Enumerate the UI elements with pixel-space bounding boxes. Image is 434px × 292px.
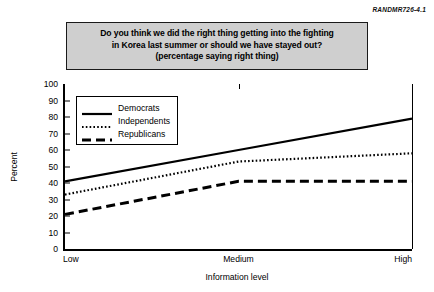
y-tick-label-40: 40	[48, 178, 65, 188]
legend-swatch-democrats	[82, 104, 112, 112]
chart-title-line-3: (percentage saying right thing)	[71, 51, 363, 63]
y-tick-label-60: 60	[48, 145, 65, 155]
y-tick-label-50: 50	[48, 162, 65, 172]
x-tick-label-low: Low	[63, 254, 79, 264]
chart-legend: DemocratsIndependentsRepublicans	[76, 96, 178, 145]
series-line-independents	[65, 153, 412, 194]
legend-label-independents: Independents	[118, 116, 170, 126]
chart-title-line-1: Do you think we did the right thing gett…	[71, 28, 363, 40]
x-axis-label: Information level	[205, 272, 268, 282]
y-tick-label-20: 20	[48, 211, 65, 221]
y-tick-label-90: 90	[48, 96, 65, 106]
figure-label: RANDMR726-4.1	[372, 6, 426, 13]
chart-title-box: Do you think we did the right thing gett…	[66, 22, 368, 70]
legend-swatch-independents	[82, 117, 112, 125]
legend-swatch-republicans	[82, 130, 112, 138]
y-tick-label-30: 30	[48, 195, 65, 205]
plot-right-edge	[412, 84, 413, 249]
legend-item-republicans: Republicans	[82, 127, 170, 140]
x-tick-label-high: High	[394, 254, 412, 264]
series-line-republicans	[65, 181, 412, 214]
y-tick-label-100: 100	[44, 79, 65, 89]
chart-title-line-2: in Korea last summer or should we have s…	[71, 40, 363, 52]
y-tick-label-10: 10	[48, 228, 65, 238]
y-tick-label-70: 70	[48, 129, 65, 139]
legend-label-democrats: Democrats	[118, 103, 160, 113]
legend-item-democrats: Democrats	[82, 101, 170, 114]
y-tick-label-0: 0	[53, 244, 65, 254]
legend-item-independents: Independents	[82, 114, 170, 127]
x-tick-label-medium: Medium	[223, 254, 254, 264]
y-axis-label: Percent	[9, 152, 19, 182]
legend-label-republicans: Republicans	[118, 129, 165, 139]
y-tick-label-80: 80	[48, 112, 65, 122]
